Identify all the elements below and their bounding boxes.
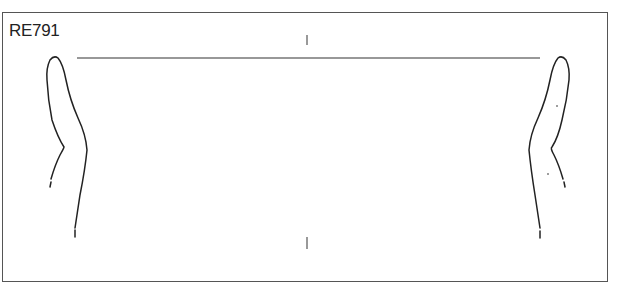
- right-profile: [529, 57, 569, 238]
- pottery-profile-drawing: [0, 0, 621, 291]
- left-profile: [47, 57, 87, 237]
